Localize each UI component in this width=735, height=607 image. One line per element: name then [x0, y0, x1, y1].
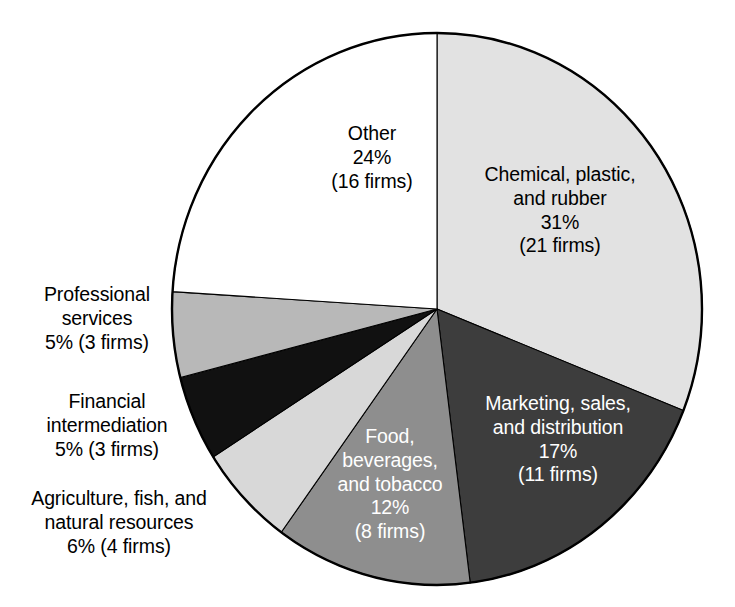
slice-label-food-beverages-tobacco: Food, beverages, and tobacco 12% (8 firm… [322, 425, 458, 544]
pie-chart: Chemical, plastic, and rubber 31% (21 fi… [0, 0, 735, 607]
slice-label-financial-intermediation: Financial intermediation 5% (3 firms) [12, 390, 202, 461]
slice-label-chemical-plastic-rubber: Chemical, plastic, and rubber 31% (21 fi… [456, 163, 664, 258]
slice-label-other: Other 24% (16 firms) [291, 122, 453, 193]
slice-label-professional-services: Professional services 5% (3 firms) [8, 283, 186, 354]
slice-label-agriculture-fish-natural-resources: Agriculture, fish, and natural resources… [0, 487, 238, 558]
slice-label-marketing-sales-distribution: Marketing, sales, and distribution 17% (… [447, 392, 669, 487]
